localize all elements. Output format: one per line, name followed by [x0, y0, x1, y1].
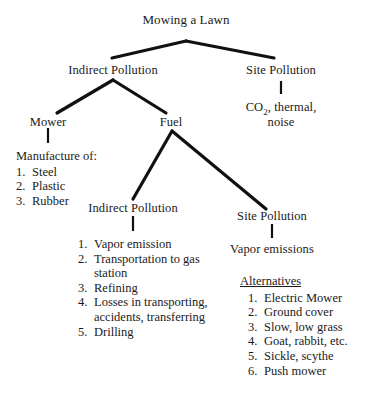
- list-item: 2.Plastic: [16, 179, 121, 194]
- list-item-number: 2.: [248, 305, 262, 320]
- list-item: 1.Electric Mower: [248, 291, 370, 306]
- list-item-number: 5.: [78, 325, 92, 340]
- list-item: 3.Slow, low grass: [248, 320, 370, 335]
- list-item: 1.Vapor emission: [78, 237, 223, 252]
- site-pollution-detail-co: CO: [246, 100, 264, 114]
- fuel-indirect-list-block: 1.Vapor emission 2.Transportation to gas…: [78, 237, 223, 339]
- alternatives-list: 1.Electric Mower 2.Ground cover 3.Slow, …: [240, 291, 370, 379]
- list-item-number: 2.: [16, 179, 30, 194]
- list-item-label: Vapor emission: [94, 237, 171, 251]
- list-item-number: 1.: [248, 291, 262, 306]
- list-item-number: 5.: [248, 349, 262, 364]
- connector-root-to-indirect-pollution: [112, 41, 186, 58]
- list-item-label: Push mower: [264, 364, 326, 378]
- node-site-pollution-level3-detail: Vapor emissions: [230, 243, 314, 256]
- node-site-pollution-level3: Site Pollution: [237, 210, 307, 223]
- list-item-number: 1.: [16, 165, 30, 180]
- list-item-label: Slow, low grass: [264, 320, 343, 334]
- node-site-pollution-level1-detail: CO2, thermal, noise: [226, 100, 336, 130]
- list-item: 1.Steel: [16, 165, 121, 180]
- list-item-label: Plastic: [32, 179, 65, 193]
- list-item-label: Transportation to gas station: [94, 252, 200, 281]
- alternatives-heading: Alternatives: [240, 274, 301, 289]
- list-item: 5.Sickle, scythe: [248, 349, 370, 364]
- node-root: Mowing a Lawn: [142, 13, 229, 26]
- node-indirect-pollution-level3: Indirect Pollution: [88, 202, 178, 215]
- list-item-number: 2.: [78, 252, 92, 267]
- list-item-label: Ground cover: [264, 305, 333, 319]
- manufacture-heading: Manufacture of:: [16, 149, 121, 164]
- list-item-label: Electric Mower: [264, 291, 342, 305]
- site-pollution-detail-rest: , thermal,: [268, 100, 317, 114]
- list-item-number: 3.: [248, 320, 262, 335]
- site-pollution-detail-line2: noise: [268, 115, 295, 129]
- list-item-number: 4.: [248, 334, 262, 349]
- manufacture-list-block: Manufacture of: 1.Steel 2.Plastic 3.Rubb…: [16, 149, 121, 208]
- alternatives-heading-wrap: Alternatives: [240, 274, 370, 290]
- list-item-label: Steel: [32, 165, 57, 179]
- list-item-number: 3.: [16, 194, 30, 209]
- list-item-number: 4.: [78, 295, 92, 310]
- list-item: 3.Refining: [78, 281, 223, 296]
- node-mower: Mower: [30, 116, 67, 129]
- list-item-label: Drilling: [94, 325, 134, 339]
- fuel-indirect-list: 1.Vapor emission 2.Transportation to gas…: [78, 237, 223, 339]
- diagram-canvas: Mowing a Lawn Indirect Pollution Site Po…: [0, 0, 373, 393]
- list-item-label: Losses in transporting, accidents, trans…: [94, 295, 208, 324]
- list-item-label: Rubber: [32, 194, 69, 208]
- connector-indirect-to-fuel: [113, 80, 166, 113]
- node-fuel: Fuel: [160, 116, 183, 129]
- node-indirect-pollution-level1: Indirect Pollution: [68, 64, 158, 77]
- list-item-label: Goat, rabbit, etc.: [264, 334, 348, 348]
- connector-fuel-to-site-pollution: [172, 131, 266, 209]
- list-item: 5.Drilling: [78, 325, 223, 340]
- node-site-pollution-level1: Site Pollution: [246, 64, 316, 77]
- list-item-number: 6.: [248, 364, 262, 379]
- list-item: 2.Ground cover: [248, 305, 370, 320]
- list-item: 6.Push mower: [248, 364, 370, 379]
- list-item: 4.Losses in transporting, accidents, tra…: [78, 295, 223, 324]
- list-item-label: Sickle, scythe: [264, 349, 333, 363]
- list-item-number: 1.: [78, 237, 92, 252]
- alternatives-list-block: Alternatives 1.Electric Mower 2.Ground c…: [240, 274, 370, 378]
- connector-fuel-to-indirect-pollution: [133, 131, 172, 199]
- connector-indirect-to-mower: [57, 80, 113, 113]
- list-item: 2.Transportation to gas station: [78, 252, 223, 281]
- list-item-number: 3.: [78, 281, 92, 296]
- list-item: 4.Goat, rabbit, etc.: [248, 334, 370, 349]
- connector-root-to-site-pollution: [186, 41, 274, 58]
- list-item-label: Refining: [94, 281, 138, 295]
